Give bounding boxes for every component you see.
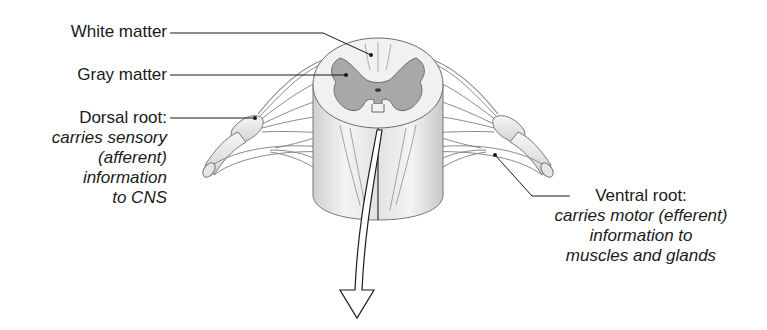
ventral-root-desc-line: information to [535, 226, 747, 246]
ventral-root-desc-line: muscles and glands [535, 246, 747, 266]
dorsal-root-desc-line: (afferent) [52, 148, 167, 168]
dorsal-root-desc-line: information [52, 168, 167, 188]
central-canal [375, 88, 381, 92]
white-matter-title: White matter [71, 22, 167, 41]
ventral-root-desc-line: carries motor (efferent) [535, 206, 747, 226]
label-dorsal-root: Dorsal root: carries sensory (afferent) … [52, 108, 167, 208]
dorsal-root-desc-line: to CNS [52, 188, 167, 208]
gray-matter-title: Gray matter [77, 65, 167, 84]
dorsal-root-desc-line: carries sensory [52, 128, 167, 148]
label-ventral-root: Ventral root: carries motor (efferent) i… [535, 186, 747, 266]
label-gray-matter: Gray matter [77, 65, 167, 85]
label-white-matter: White matter [71, 22, 167, 42]
dorsal-root-title: Dorsal root: [52, 108, 167, 128]
ventral-root-title: Ventral root: [535, 186, 747, 206]
